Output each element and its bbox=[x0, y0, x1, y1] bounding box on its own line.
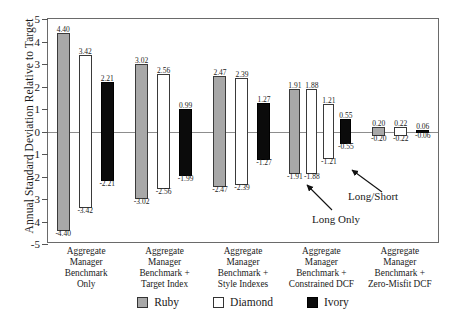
x-axis-category-line: Only bbox=[47, 279, 125, 290]
bar-value-label-bottom: -4.40 bbox=[55, 230, 71, 238]
bar-value-label-top: 4.40 bbox=[57, 26, 70, 34]
legend-item-label: Diamond bbox=[230, 296, 273, 308]
x-axis-category-line: Aggregate bbox=[47, 246, 125, 257]
bar-value-label-top: 0.22 bbox=[394, 120, 407, 128]
bar-value-label-top: 2.56 bbox=[157, 67, 170, 75]
bar-value-label-bottom: -1.27 bbox=[256, 159, 272, 167]
bar-ruby[interactable]: 2.47-2.47 bbox=[213, 76, 226, 187]
bar-value-label-top: 2.47 bbox=[213, 69, 226, 77]
x-axis-category-line: Manager bbox=[125, 257, 203, 268]
bar-value-label-bottom: -3.02 bbox=[134, 198, 150, 206]
x-axis-category-label: AggregateManagerBenchmark +Style Indexes bbox=[204, 246, 282, 290]
y-axis-tick-label: 3 bbox=[12, 64, 40, 65]
bar-diamond[interactable]: 0.22-0.22 bbox=[394, 127, 407, 137]
legend-item-ruby[interactable]: Ruby bbox=[137, 296, 179, 308]
legend-item-ivory[interactable]: Ivory bbox=[307, 296, 349, 308]
bar-value-label-bottom: -1.99 bbox=[178, 175, 194, 183]
bar-value-label-top: 2.39 bbox=[235, 71, 248, 79]
bar-ruby[interactable]: 0.20-0.20 bbox=[372, 127, 385, 136]
x-axis-category-line: Manager bbox=[204, 257, 282, 268]
x-axis-category-line: Aggregate bbox=[125, 246, 203, 257]
x-axis-category-line: Manager bbox=[47, 257, 125, 268]
bar-diamond[interactable]: 2.39-2.39 bbox=[235, 78, 248, 186]
bar-ivory[interactable]: 0.55-0.55 bbox=[340, 119, 351, 144]
x-axis-category-label: AggregateManagerBenchmarkOnly bbox=[47, 246, 125, 290]
y-axis-title: Annual Standard Deviation Relative to Ta… bbox=[23, 1, 35, 251]
bar-ruby[interactable]: 1.91-1.91 bbox=[289, 89, 300, 175]
bar-value-label-bottom: -2.56 bbox=[156, 188, 172, 196]
bar-group: 0.20-0.200.22-0.220.06-0.06 bbox=[362, 19, 440, 242]
bar-value-label-bottom: -0.06 bbox=[415, 132, 431, 140]
x-axis-category-line: Target Index bbox=[125, 279, 203, 290]
bar-value-label-top: 3.42 bbox=[79, 48, 92, 56]
x-axis-category-line: Aggregate bbox=[204, 246, 282, 257]
y-axis-tick-label: -5 bbox=[12, 244, 40, 245]
x-axis-category-line: Zero-Misfit DCF bbox=[361, 279, 439, 290]
bar-group: 1.91-1.911.88-1.881.21-1.210.55-0.55 bbox=[283, 19, 361, 242]
x-axis-category-line: Benchmark + bbox=[282, 268, 360, 279]
y-axis-tick-label: -4 bbox=[12, 222, 40, 223]
bar-value-label-top: 3.02 bbox=[135, 57, 148, 65]
y-axis-tick-label: 2 bbox=[12, 87, 40, 88]
bar-value-label-top: 0.55 bbox=[339, 112, 352, 120]
bar-group: 3.02-3.022.56-2.560.99-1.99 bbox=[126, 19, 204, 242]
annotation-long-only: Long Only bbox=[312, 213, 360, 225]
x-axis-category-line: Aggregate bbox=[361, 246, 439, 257]
x-axis-category-line: Aggregate bbox=[282, 246, 360, 257]
y-axis-tick-label: 5 bbox=[12, 19, 40, 20]
x-axis-category-line: Constrained DCF bbox=[282, 279, 360, 290]
bar-diamond[interactable]: 1.88-1.88 bbox=[306, 89, 317, 174]
x-axis-category-line: Manager bbox=[282, 257, 360, 268]
x-axis-category-line: Benchmark bbox=[47, 268, 125, 279]
bar-value-label-bottom: -0.55 bbox=[338, 143, 354, 151]
x-axis-category-line: Manager bbox=[361, 257, 439, 268]
y-axis-tick-label: -1 bbox=[12, 154, 40, 155]
x-axis-category-label: AggregateManagerBenchmark +Zero-Misfit D… bbox=[361, 246, 439, 290]
x-axis-category-labels: AggregateManagerBenchmarkOnlyAggregateMa… bbox=[47, 246, 439, 292]
y-axis-tick bbox=[42, 244, 48, 245]
bar-value-label-bottom: -2.47 bbox=[212, 186, 228, 194]
legend-item-label: Ivory bbox=[324, 296, 349, 308]
y-axis-tick-label: 0 bbox=[12, 132, 40, 133]
bar-diamond[interactable]: 1.21-1.21 bbox=[323, 104, 334, 158]
bar-ivory[interactable]: 1.27-1.27 bbox=[257, 103, 270, 160]
bar-value-label-bottom: -1.88 bbox=[304, 173, 320, 181]
bar-value-label-bottom: -1.21 bbox=[321, 158, 337, 166]
x-axis-category-line: Style Indexes bbox=[204, 279, 282, 290]
bar-value-label-top: 0.20 bbox=[372, 120, 385, 128]
bar-value-label-bottom: -2.21 bbox=[99, 180, 115, 188]
ruby-swatch-icon bbox=[137, 297, 148, 308]
x-axis-category-label: AggregateManagerBenchmark +Target Index bbox=[125, 246, 203, 290]
bar-ivory[interactable]: 2.21-2.21 bbox=[101, 82, 114, 181]
bar-value-label-bottom: -0.20 bbox=[371, 135, 387, 143]
bar-value-label-top: 1.91 bbox=[288, 82, 301, 90]
bar-group: 4.40-4.403.42-3.422.21-2.21 bbox=[48, 19, 126, 242]
bar-value-label-top: 1.27 bbox=[257, 96, 270, 104]
x-axis-category-line: Benchmark + bbox=[125, 268, 203, 279]
bar-diamond[interactable]: 3.42-3.42 bbox=[79, 55, 92, 209]
ivory-swatch-icon bbox=[307, 297, 318, 308]
bar-ivory[interactable]: 0.99-1.99 bbox=[179, 109, 192, 176]
bar-value-label-top: 2.21 bbox=[101, 75, 114, 83]
x-axis-category-label: AggregateManagerBenchmark +Constrained D… bbox=[282, 246, 360, 290]
bar-ivory[interactable]: 0.06-0.06 bbox=[416, 130, 429, 133]
legend-item-label: Ruby bbox=[154, 296, 179, 308]
annotation-long-short: Long/Short bbox=[348, 190, 398, 202]
bar-value-label-top: 1.88 bbox=[305, 82, 318, 90]
y-axis-tick-label: 1 bbox=[12, 109, 40, 110]
bar-value-label-bottom: -3.42 bbox=[77, 207, 93, 215]
x-axis-category-line: Benchmark + bbox=[361, 268, 439, 279]
diamond-swatch-icon bbox=[213, 297, 224, 308]
bar-diamond[interactable]: 2.56-2.56 bbox=[157, 74, 170, 189]
bar-ruby[interactable]: 3.02-3.02 bbox=[135, 64, 148, 200]
plot-area: 543210-1-2-3-4-54.40-4.403.42-3.422.21-2… bbox=[47, 18, 439, 243]
y-axis-tick-label: -2 bbox=[12, 177, 40, 178]
x-axis-category-line: Benchmark + bbox=[204, 268, 282, 279]
bar-value-label-bottom: -2.39 bbox=[234, 184, 250, 192]
bar-value-label-bottom: -1.91 bbox=[287, 173, 303, 181]
chart-root: Annual Standard Deviation Relative to Ta… bbox=[0, 0, 457, 331]
bar-ruby[interactable]: 4.40-4.40 bbox=[57, 33, 70, 231]
chart-legend: RubyDiamondIvory bbox=[47, 296, 439, 308]
bar-value-label-top: 1.21 bbox=[322, 97, 335, 105]
legend-item-diamond[interactable]: Diamond bbox=[213, 296, 273, 308]
